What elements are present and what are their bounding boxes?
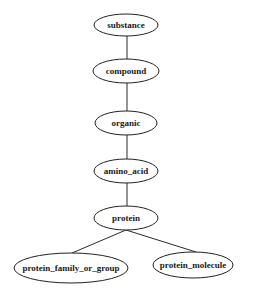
node-protein-molecule: protein_molecule bbox=[153, 252, 233, 278]
node-label: amino_acid bbox=[104, 166, 149, 176]
edge-protein-to-protein_family_or_group bbox=[72, 230, 126, 253]
node-protein-family-or-group: protein_family_or_group bbox=[14, 253, 128, 283]
node-label: protein_family_or_group bbox=[22, 263, 119, 273]
node-label: compound bbox=[106, 66, 147, 76]
node-organic: organic bbox=[95, 111, 157, 135]
node-substance: substance bbox=[94, 14, 158, 36]
node-label: protein_molecule bbox=[160, 260, 226, 270]
nodes-group: substancecompoundorganicamino_acidprotei… bbox=[14, 14, 233, 283]
node-label: substance bbox=[107, 20, 145, 30]
edge-protein-to-protein_molecule bbox=[126, 230, 196, 252]
node-label: organic bbox=[112, 118, 141, 128]
node-protein: protein bbox=[94, 206, 158, 230]
node-compound: compound bbox=[93, 59, 159, 83]
node-amino-acid: amino_acid bbox=[94, 159, 158, 183]
hierarchy-diagram: substancecompoundorganicamino_acidprotei… bbox=[0, 0, 256, 299]
node-label: protein bbox=[112, 213, 140, 223]
